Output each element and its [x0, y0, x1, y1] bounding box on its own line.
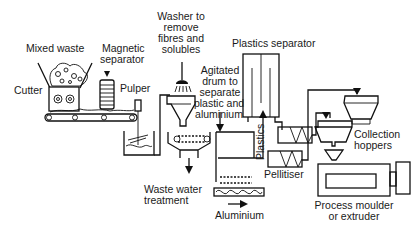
- label-mixed-waste: Mixed waste: [26, 42, 85, 54]
- label-drum-5: aluminium: [195, 108, 243, 120]
- label-washer-4: solubles: [162, 43, 201, 55]
- label-pulper: Pulper: [120, 82, 151, 94]
- cutter-hopper: [38, 63, 92, 111]
- label-pellitiser: Pellitiser: [264, 168, 304, 180]
- conveyor-belt: [45, 109, 137, 121]
- label-waste-water-2: treatment: [144, 194, 188, 206]
- pulper: [124, 95, 170, 155]
- process-diagram: Mixed waste Cutter Magnetic separator Pu…: [0, 0, 419, 231]
- label-moulder-2: or extruder: [329, 210, 380, 222]
- process-moulder: [318, 162, 410, 196]
- label-aluminium: Aluminium: [215, 209, 264, 221]
- label-magnetic-2: separator: [100, 53, 145, 65]
- label-plastics-separator: Plastics separator: [232, 37, 316, 49]
- screen-filter: [168, 132, 210, 174]
- label-cutter: Cutter: [14, 84, 43, 96]
- label-plastics-flow: Plastics: [254, 124, 266, 160]
- washer: [167, 62, 195, 126]
- magnetic-separator: [100, 71, 114, 109]
- label-collection-2: hoppers: [354, 139, 392, 151]
